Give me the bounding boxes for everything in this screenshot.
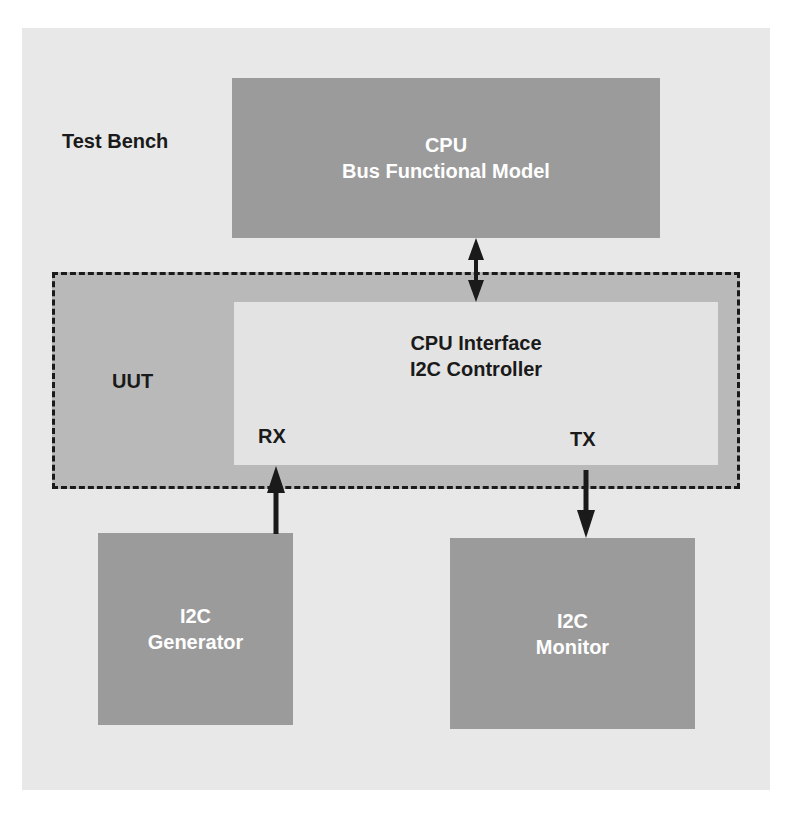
- cpu-bfm-box: CPU Bus Functional Model: [232, 78, 660, 238]
- monitor-line2: Monitor: [536, 634, 609, 660]
- uut-label: UUT: [112, 370, 153, 393]
- test-bench-label: Test Bench: [62, 130, 168, 153]
- controller-line1: CPU Interface: [234, 330, 718, 356]
- i2c-monitor-box: I2C Monitor: [450, 538, 695, 729]
- monitor-line1: I2C: [557, 608, 588, 634]
- diagram-canvas: Test Bench CPU Bus Functional Model UUT …: [0, 0, 793, 816]
- generator-line2: Generator: [148, 629, 244, 655]
- rx-label: RX: [258, 425, 286, 448]
- generator-line1: I2C: [180, 603, 211, 629]
- i2c-generator-box: I2C Generator: [98, 533, 293, 725]
- cpu-bfm-line2: Bus Functional Model: [342, 158, 550, 184]
- i2c-controller-label: CPU Interface I2C Controller: [234, 330, 718, 382]
- cpu-bfm-line1: CPU: [425, 132, 467, 158]
- tx-label: TX: [570, 428, 596, 451]
- controller-line2: I2C Controller: [234, 356, 718, 382]
- i2c-controller-box: [234, 302, 718, 465]
